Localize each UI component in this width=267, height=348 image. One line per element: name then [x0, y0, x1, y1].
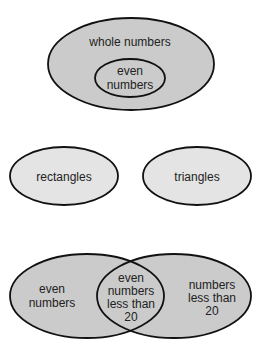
left-set-label-line1: even [39, 282, 65, 296]
right-set-label-line3: 20 [205, 304, 219, 318]
rectangles-label: rectangles [36, 170, 91, 184]
intersection-label-line4: 20 [124, 310, 138, 324]
nested-venn-diagram: whole numbers even numbers [48, 18, 214, 110]
even-numbers-label-line1: even [117, 64, 143, 78]
intersection-label-line1: even [118, 271, 144, 285]
left-set-label-line2: numbers [29, 296, 76, 310]
even-numbers-label-line2: numbers [107, 78, 154, 92]
triangles-label: triangles [174, 170, 219, 184]
venn-diagrams-figure: whole numbers even numbers rectangles tr… [0, 0, 267, 348]
disjoint-venn-diagram: rectangles triangles [10, 147, 251, 205]
right-set-label-line2: less than [188, 291, 236, 305]
right-set-label-line1: numbers [189, 278, 236, 292]
intersection-label-line2: numbers [108, 284, 155, 298]
overlapping-venn-diagram: even numbers even numbers less than 20 n… [10, 254, 251, 338]
intersection-label-line3: less than [107, 297, 155, 311]
whole-numbers-label: whole numbers [88, 35, 170, 49]
